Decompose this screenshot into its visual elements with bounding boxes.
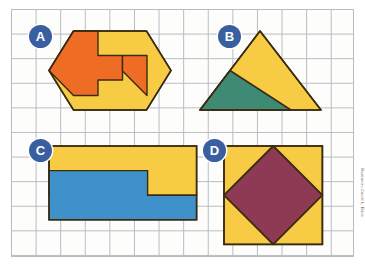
- worksheet-page: A B C D Illustration: Carole L. Eldon: [0, 0, 365, 265]
- shape-label-badge-d: D: [203, 139, 226, 162]
- shape-label-badge-b: B: [218, 25, 241, 48]
- illustration-credit: Illustration: Carole L. Eldon: [354, 168, 364, 217]
- shape-label-badge-c: C: [29, 139, 52, 162]
- shape-label-badge-a: A: [29, 25, 52, 48]
